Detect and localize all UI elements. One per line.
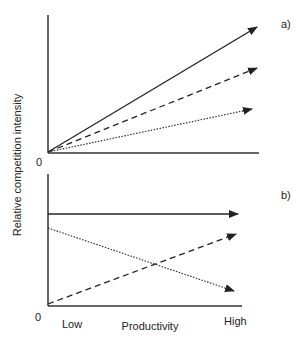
series-solid-a	[48, 27, 257, 152]
y-axis-title: Relative competition intensity	[11, 93, 23, 236]
x-tick-low: Low	[62, 318, 82, 330]
panel-a: a) 0	[36, 15, 291, 168]
series-dotted-a	[48, 109, 252, 152]
origin-label-b: 0	[35, 311, 41, 323]
x-axis-title: Productivity	[122, 320, 179, 332]
diagram: a) 0 b) 0 Low High Productivity Relative…	[0, 0, 303, 344]
series-dotted-b	[48, 228, 234, 291]
panel-label-b: b)	[281, 189, 291, 201]
panel-b: b) 0 Low High Productivity	[35, 174, 291, 332]
series-dashed-a	[48, 68, 257, 152]
panel-label-a: a)	[281, 18, 291, 30]
origin-label-a: 0	[36, 156, 42, 168]
x-tick-high: High	[224, 315, 247, 327]
series-dashed-b	[48, 234, 236, 304]
